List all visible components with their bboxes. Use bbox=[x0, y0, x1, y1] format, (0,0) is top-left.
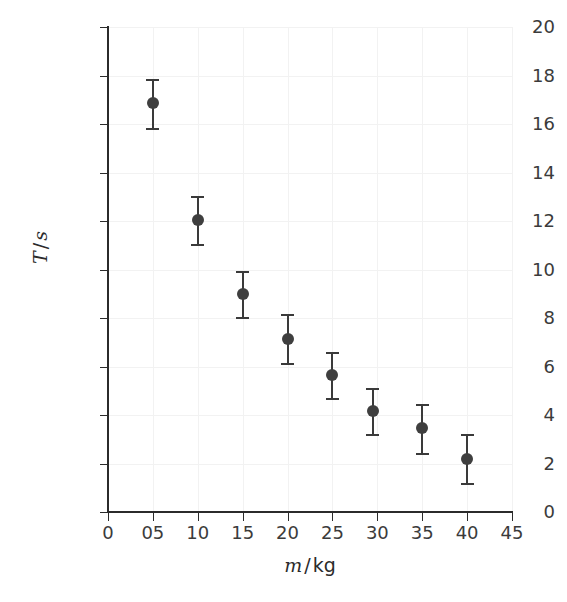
error-bar-cap bbox=[191, 196, 204, 198]
y-axis-separator: / bbox=[29, 241, 51, 251]
gridline-horizontal bbox=[108, 270, 512, 271]
x-axis-tick bbox=[288, 513, 289, 521]
y-axis-tick-label: 14 bbox=[475, 164, 567, 182]
y-axis-tick bbox=[100, 512, 108, 513]
error-bar-cap bbox=[236, 271, 249, 273]
x-axis-tick bbox=[377, 513, 378, 521]
y-axis-tick bbox=[100, 464, 108, 465]
data-point bbox=[237, 288, 249, 300]
x-axis-tick bbox=[467, 513, 468, 521]
error-bar-cap bbox=[326, 398, 339, 400]
y-axis-tick bbox=[100, 270, 108, 271]
y-axis-tick bbox=[100, 76, 108, 77]
gridline-horizontal bbox=[108, 367, 512, 368]
error-bar-cap bbox=[461, 434, 474, 436]
x-axis-tick-label: 45 bbox=[482, 524, 542, 542]
error-bar-cap bbox=[326, 352, 339, 354]
error-bar-cap bbox=[416, 404, 429, 406]
x-axis-tick bbox=[108, 513, 109, 521]
x-axis-unit: kg bbox=[313, 554, 336, 576]
error-bar-cap bbox=[236, 317, 249, 319]
y-axis-tick bbox=[100, 221, 108, 222]
x-axis-tick bbox=[153, 513, 154, 521]
x-axis-tick bbox=[422, 513, 423, 521]
error-bar-cap bbox=[281, 363, 294, 365]
y-axis-tick bbox=[100, 27, 108, 28]
x-axis-variable: m bbox=[284, 554, 302, 576]
x-axis-separator: / bbox=[302, 554, 312, 576]
error-bar-cap bbox=[366, 434, 379, 436]
error-bar-cap bbox=[191, 244, 204, 246]
y-axis-tick-label: 0 bbox=[475, 503, 567, 521]
error-bar-cap bbox=[416, 453, 429, 455]
y-axis-tick bbox=[100, 367, 108, 368]
gridline-horizontal bbox=[108, 173, 512, 174]
x-axis-tick bbox=[243, 513, 244, 521]
gridline-horizontal bbox=[108, 464, 512, 465]
y-axis-tick bbox=[100, 124, 108, 125]
y-axis-tick bbox=[100, 173, 108, 174]
y-axis-tick-label: 8 bbox=[475, 309, 567, 327]
x-axis-spine bbox=[107, 511, 513, 513]
y-axis-tick-label: 18 bbox=[475, 67, 567, 85]
y-axis-tick-label: 10 bbox=[475, 261, 567, 279]
y-axis-unit: s bbox=[29, 231, 51, 241]
gridline-horizontal bbox=[108, 124, 512, 125]
data-point bbox=[461, 453, 473, 465]
gridline-horizontal bbox=[108, 318, 512, 319]
gridline-horizontal bbox=[108, 76, 512, 77]
error-bar-cap bbox=[281, 314, 294, 316]
data-point bbox=[282, 333, 294, 345]
gridline-horizontal bbox=[108, 221, 512, 222]
error-bar-cap bbox=[461, 483, 474, 485]
x-axis-tick bbox=[198, 513, 199, 521]
y-axis-tick-label: 20 bbox=[475, 18, 567, 36]
y-axis-title: T/s bbox=[31, 218, 50, 278]
y-axis-tick-label: 12 bbox=[475, 212, 567, 230]
error-bar-cap bbox=[146, 128, 159, 130]
gridline-horizontal bbox=[108, 27, 512, 28]
scatter-plot-figure: 005101520253035404502468101214161820 m/k… bbox=[0, 0, 567, 602]
data-point bbox=[192, 214, 204, 226]
y-axis-tick-label: 2 bbox=[475, 455, 567, 473]
x-axis-tick bbox=[332, 513, 333, 521]
error-bar-cap bbox=[366, 388, 379, 390]
y-axis-tick-label: 16 bbox=[475, 115, 567, 133]
gridline-horizontal bbox=[108, 415, 512, 416]
y-axis-tick bbox=[100, 415, 108, 416]
y-axis-tick-label: 6 bbox=[475, 358, 567, 376]
x-axis-title: m/kg bbox=[108, 556, 512, 575]
y-axis-variable: T bbox=[29, 251, 51, 264]
y-axis-tick bbox=[100, 318, 108, 319]
error-bar-cap bbox=[146, 79, 159, 81]
plot-area bbox=[108, 27, 512, 512]
y-axis-tick-label: 4 bbox=[475, 406, 567, 424]
